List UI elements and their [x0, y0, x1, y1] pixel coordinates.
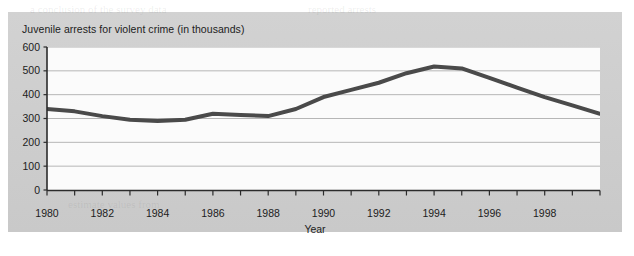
chart-figure: a conclusion of the survey data reported… [0, 0, 634, 256]
background-bleed-text: a conclusion of the survey data [30, 3, 167, 15]
plot-area [47, 47, 600, 190]
y-axis-tick-label: 200 [10, 137, 40, 148]
x-axis-tick-label: 1994 [414, 208, 454, 219]
chart-title: Juvenile arrests for violent crime (in t… [22, 23, 244, 35]
x-axis-tick-label: 1986 [193, 208, 233, 219]
chart-panel: a conclusion of the survey data reported… [8, 12, 622, 232]
background-bleed-text: reported arrests [308, 3, 376, 15]
x-axis-tick-label: 1982 [82, 208, 122, 219]
x-axis-tick-label: 1998 [525, 208, 565, 219]
x-axis-tick-label: 1992 [359, 208, 399, 219]
y-axis-tick-label: 400 [10, 89, 40, 100]
y-axis-tick-label: 300 [10, 113, 40, 124]
x-axis-tick-label: 1984 [138, 208, 178, 219]
x-axis-tick-label: 1996 [469, 208, 509, 219]
y-axis-tick-label: 600 [10, 42, 40, 53]
x-axis-tick-label: 1988 [248, 208, 288, 219]
x-axis-tick-label: 1980 [27, 208, 67, 219]
y-axis-tick-label: 0 [10, 185, 40, 196]
y-axis-tick-label: 100 [10, 161, 40, 172]
plot-svg [47, 47, 600, 190]
x-axis-label: Year [8, 223, 622, 235]
x-axis-tick-marks [47, 191, 600, 196]
x-axis-tick-label: 1990 [304, 208, 344, 219]
y-axis-tick-label: 500 [10, 65, 40, 76]
